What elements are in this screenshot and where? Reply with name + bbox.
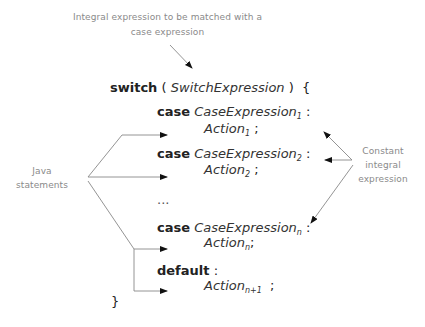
case-line-1: case CaseExpression1 : bbox=[157, 104, 310, 119]
case-line-n: case CaseExpressionn : bbox=[157, 220, 310, 235]
action-line-n: Actionn; bbox=[204, 235, 254, 250]
open-paren: ( bbox=[162, 80, 167, 95]
case-keyword: case bbox=[157, 104, 190, 119]
case-colon: : bbox=[306, 104, 310, 119]
close-paren: ) bbox=[289, 80, 294, 95]
default-keyword: default bbox=[157, 263, 209, 278]
close-brace: } bbox=[111, 294, 119, 309]
left-annotation-line1: Java bbox=[14, 164, 70, 178]
action-semicolon: ; bbox=[270, 278, 274, 293]
top-annotation-line1: Integral expression to be matched with a bbox=[60, 10, 275, 25]
action: Action2 bbox=[204, 162, 250, 177]
switch-keyword: switch bbox=[110, 80, 157, 95]
left-arrow-actionn bbox=[88, 181, 167, 249]
case-colon: : bbox=[306, 220, 310, 235]
left-arrow-action1 bbox=[88, 135, 167, 177]
right-annotation-line1: Constant bbox=[352, 144, 414, 158]
case-expression: CaseExpressionn bbox=[194, 220, 302, 235]
ellipsis: ... bbox=[157, 192, 169, 207]
default-colon: : bbox=[214, 263, 218, 278]
case-keyword: case bbox=[157, 146, 190, 161]
left-annotation: Java statements bbox=[14, 164, 70, 192]
case-colon: : bbox=[306, 146, 310, 161]
case-line-2: case CaseExpression2 : bbox=[157, 146, 310, 161]
case-expression: CaseExpression2 bbox=[194, 146, 302, 161]
action-line-1: Action1 ; bbox=[204, 121, 259, 136]
open-brace: { bbox=[302, 80, 310, 95]
action: Action1 bbox=[204, 121, 250, 136]
top-annotation: Integral expression to be matched with a… bbox=[60, 10, 275, 40]
switch-expression: SwitchExpression bbox=[171, 80, 285, 95]
case-keyword: case bbox=[157, 220, 190, 235]
action-line-default: Actionn+1 ; bbox=[204, 278, 274, 293]
default-line: default : bbox=[157, 263, 218, 278]
right-annotation: Constant integral expression bbox=[352, 144, 414, 186]
left-annotation-line2: statements bbox=[14, 178, 70, 192]
action: Actionn+1 bbox=[204, 278, 262, 293]
action-line-2: Action2 ; bbox=[204, 162, 259, 177]
action: Actionn bbox=[204, 235, 250, 250]
right-arrow-casen bbox=[311, 165, 353, 223]
right-annotation-line3: expression bbox=[352, 172, 414, 186]
action-semicolon: ; bbox=[254, 162, 258, 177]
top-annotation-line2: case expression bbox=[60, 25, 275, 40]
action-semicolon: ; bbox=[250, 235, 254, 250]
action-semicolon: ; bbox=[254, 121, 258, 136]
switch-line: switch ( SwitchExpression ) { bbox=[110, 80, 310, 95]
right-annotation-line2: integral bbox=[352, 158, 414, 172]
case-expression: CaseExpression1 bbox=[194, 104, 302, 119]
right-arrow-case1 bbox=[324, 132, 352, 160]
top-arrow bbox=[170, 45, 192, 68]
